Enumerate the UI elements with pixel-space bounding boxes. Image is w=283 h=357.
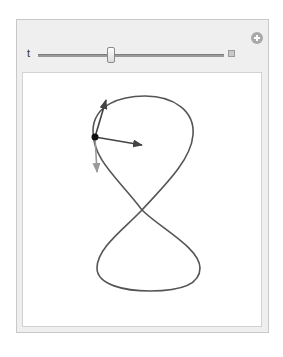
moving-point[interactable] <box>92 134 99 141</box>
tangent-arrow <box>95 100 106 137</box>
curve-path <box>93 96 200 291</box>
figure-eight-plot <box>0 0 283 357</box>
normal-arrow <box>95 137 142 145</box>
gray-vector-arrow <box>95 137 97 172</box>
